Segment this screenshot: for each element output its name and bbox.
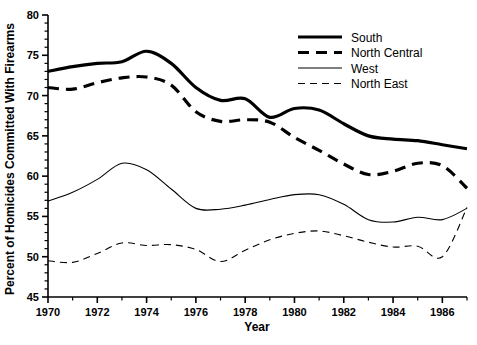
legend-label-west: West bbox=[351, 62, 379, 76]
line-chart: Percent of Homicides Committed With Fire… bbox=[0, 0, 477, 345]
x-tick-label: 1972 bbox=[85, 306, 109, 318]
series-line-north-east bbox=[48, 208, 467, 263]
x-tick-label: 1986 bbox=[430, 306, 454, 318]
y-axis-ticks: 4550556065707580 bbox=[27, 9, 48, 303]
series-line-west bbox=[48, 163, 467, 222]
x-axis-ticks: 197019721974197619781980198219841986 bbox=[36, 297, 467, 318]
y-tick-label: 45 bbox=[27, 291, 39, 303]
x-tick-label: 1984 bbox=[381, 306, 406, 318]
x-tick-label: 1976 bbox=[184, 306, 208, 318]
legend-label-north-east: North East bbox=[351, 77, 408, 91]
y-tick-label: 50 bbox=[27, 251, 39, 263]
chart-figure: Percent of Homicides Committed With Fire… bbox=[0, 0, 477, 345]
y-axis-title: Percent of Homicides Committed With Fire… bbox=[3, 23, 17, 295]
y-tick-label: 65 bbox=[27, 130, 39, 142]
y-tick-label: 80 bbox=[27, 9, 39, 21]
series-line-north-central bbox=[48, 77, 467, 189]
legend-label-north-central: North Central bbox=[351, 46, 422, 60]
y-tick-label: 70 bbox=[27, 90, 39, 102]
x-tick-label: 1974 bbox=[134, 306, 159, 318]
y-tick-label: 75 bbox=[27, 49, 39, 61]
x-tick-label: 1970 bbox=[36, 306, 60, 318]
x-tick-label: 1980 bbox=[282, 306, 306, 318]
y-axis-title-text: Percent of Homicides Committed With Fire… bbox=[3, 23, 17, 295]
chart-legend: SouthNorth CentralWestNorth East bbox=[298, 31, 422, 92]
legend-label-south: South bbox=[351, 31, 382, 45]
y-tick-label: 60 bbox=[27, 170, 39, 182]
x-axis-title-text: Year bbox=[244, 320, 270, 334]
x-tick-label: 1978 bbox=[233, 306, 257, 318]
x-tick-label: 1982 bbox=[332, 306, 356, 318]
series-line-south bbox=[48, 51, 467, 148]
y-tick-label: 55 bbox=[27, 210, 39, 222]
